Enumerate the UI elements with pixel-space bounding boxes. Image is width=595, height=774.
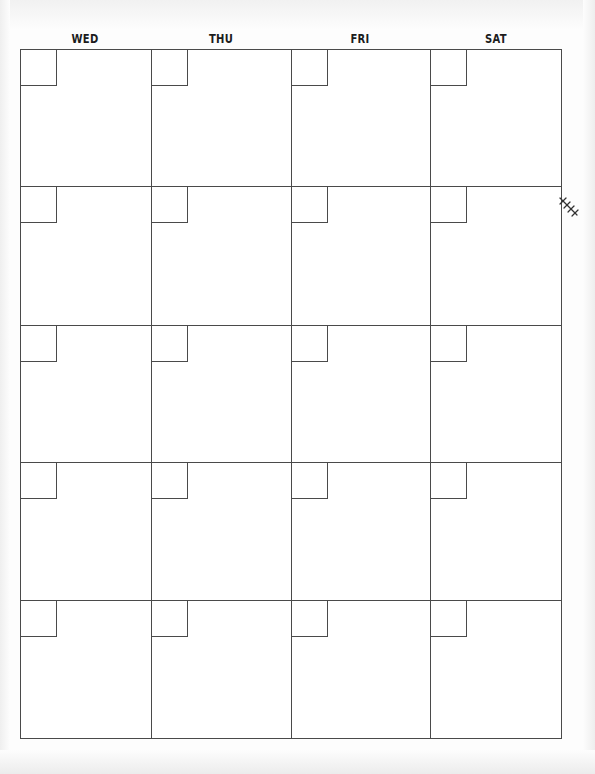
calendar-day-cell bbox=[291, 462, 430, 600]
calendar-day-cell bbox=[20, 186, 151, 325]
date-number-box bbox=[431, 463, 467, 499]
page-shadow-top bbox=[0, 0, 595, 30]
date-number-box bbox=[152, 601, 188, 637]
date-number-box bbox=[292, 50, 328, 86]
date-number-box bbox=[292, 601, 328, 637]
date-number-box bbox=[292, 187, 328, 223]
calendar-day-cell bbox=[20, 325, 151, 462]
date-number-box bbox=[431, 50, 467, 86]
date-number-box bbox=[21, 463, 57, 499]
date-number-box bbox=[292, 463, 328, 499]
day-header-fri: FRI bbox=[350, 32, 369, 45]
calendar-day-cell bbox=[20, 49, 151, 186]
date-number-box bbox=[21, 187, 57, 223]
date-number-box bbox=[21, 326, 57, 362]
calendar-day-cell bbox=[151, 325, 291, 462]
calendar-day-cell bbox=[291, 325, 430, 462]
date-number-box bbox=[431, 187, 467, 223]
date-number-box bbox=[152, 50, 188, 86]
page-shadow-right bbox=[583, 0, 595, 774]
date-number-box bbox=[431, 326, 467, 362]
calendar-day-cell bbox=[151, 600, 291, 739]
day-header-thu: THU bbox=[209, 32, 233, 45]
leaf-sprig-icon bbox=[557, 195, 581, 219]
date-number-box bbox=[152, 463, 188, 499]
calendar-day-cell bbox=[20, 600, 151, 739]
page-shadow-left bbox=[0, 0, 10, 774]
calendar-day-cell bbox=[291, 49, 430, 186]
calendar-day-cell bbox=[430, 186, 562, 325]
calendar-day-cell bbox=[291, 600, 430, 739]
date-number-box bbox=[21, 601, 57, 637]
calendar-day-cell bbox=[430, 462, 562, 600]
date-number-box bbox=[292, 326, 328, 362]
calendar-day-cell bbox=[430, 325, 562, 462]
calendar-day-cell bbox=[430, 49, 562, 186]
calendar-day-cell bbox=[291, 186, 430, 325]
day-header-wed: WED bbox=[71, 32, 98, 45]
calendar-day-cell bbox=[151, 49, 291, 186]
calendar-day-cell bbox=[151, 462, 291, 600]
date-number-box bbox=[21, 50, 57, 86]
page-shadow-bottom bbox=[0, 750, 595, 774]
calendar-day-cell bbox=[20, 462, 151, 600]
date-number-box bbox=[431, 601, 467, 637]
date-number-box bbox=[152, 326, 188, 362]
date-number-box bbox=[152, 187, 188, 223]
calendar-day-cell bbox=[151, 186, 291, 325]
calendar-day-cell bbox=[430, 600, 562, 739]
day-header-sat: SAT bbox=[485, 32, 507, 45]
